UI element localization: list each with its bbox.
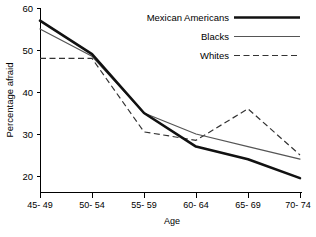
y-tick-label-50: 50 — [22, 45, 33, 56]
legend-label-mexican-americans: Mexican Americans — [147, 12, 230, 23]
y-tick-label-20: 20 — [22, 171, 33, 182]
x-tick-label-60-64: 60- 64 — [183, 200, 209, 210]
y-tick-label-30: 30 — [22, 129, 33, 140]
y-axis-title: Percentage afraid — [4, 63, 15, 138]
y-tick-label-60: 60 — [22, 3, 33, 14]
x-tick-label-50-54: 50- 54 — [79, 200, 105, 210]
x-tick-label-45-49: 45- 49 — [27, 200, 53, 210]
series-line-whites — [40, 58, 300, 155]
series-line-blacks — [40, 29, 300, 159]
line-chart: 60 50 40 30 20 Percentage afraid 45- 49 … — [0, 0, 316, 237]
legend-label-whites: Whites — [200, 50, 229, 61]
x-axis-ticks — [41, 193, 301, 198]
x-tick-label-55-59: 55- 59 — [131, 200, 157, 210]
chart-figure: 60 50 40 30 20 Percentage afraid 45- 49 … — [0, 0, 316, 237]
x-tick-label-70-74: 70- 74 — [285, 200, 311, 210]
chart-legend: Mexican Americans Blacks Whites — [147, 12, 300, 61]
y-tick-label-40: 40 — [22, 87, 33, 98]
x-axis-title: Age — [164, 216, 180, 226]
series-line-mexican-americans — [40, 21, 300, 179]
legend-label-blacks: Blacks — [201, 31, 229, 42]
y-axis-ticks — [37, 9, 41, 177]
x-tick-label-65-69: 65- 69 — [235, 200, 261, 210]
